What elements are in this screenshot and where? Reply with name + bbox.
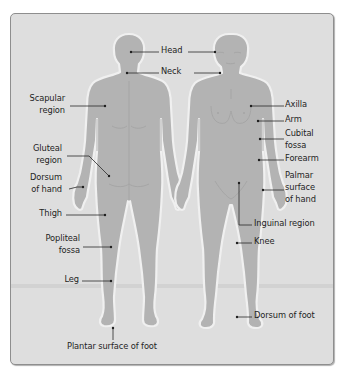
label-forearm: Forearm xyxy=(285,153,319,164)
label-knee: Knee xyxy=(254,236,275,247)
label-inguinal-region: Inguinal region xyxy=(254,218,315,229)
label-arm: Arm xyxy=(285,114,302,125)
label-leg: Leg xyxy=(64,274,79,285)
label-gluteal-line2: region xyxy=(36,155,62,166)
label-dorsum-hand-line2: of hand xyxy=(31,184,62,195)
label-scapular-line2: region xyxy=(39,105,65,116)
fold-line xyxy=(11,284,333,288)
label-palmar-line3: of hand xyxy=(285,194,316,205)
label-thigh: Thigh xyxy=(39,208,62,219)
label-cubital-line2: fossa xyxy=(285,140,306,151)
label-palmar-line2: surface xyxy=(285,182,315,193)
label-scapular-line1: Scapular xyxy=(30,93,65,104)
label-dorsum-foot: Dorsum of foot xyxy=(254,310,315,321)
label-palmar-line1: Palmar xyxy=(285,170,313,181)
label-gluteal-line1: Gluteal xyxy=(33,143,62,154)
label-dorsum-hand-line1: Dorsum xyxy=(30,172,62,183)
label-axilla: Axilla xyxy=(285,99,307,110)
label-popliteal-line1: Popliteal xyxy=(45,233,80,244)
label-popliteal-line2: fossa xyxy=(59,245,80,256)
label-plantar-surface: Plantar surface of foot xyxy=(67,341,157,352)
label-neck: Neck xyxy=(161,66,181,77)
anterior-figure xyxy=(175,34,287,328)
label-head: Head xyxy=(161,45,182,56)
label-cubital-line1: Cubital xyxy=(285,128,314,139)
